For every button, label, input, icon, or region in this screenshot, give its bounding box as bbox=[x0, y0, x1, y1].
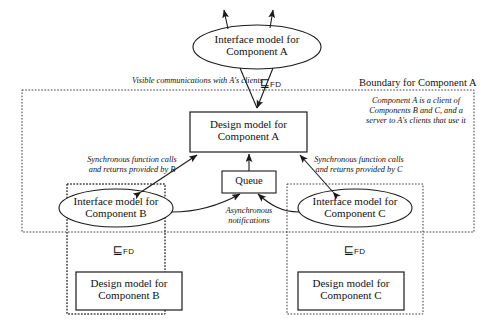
refinement-subscript-c: FD bbox=[354, 247, 365, 256]
sync-calls-b-label: Synchronous function calls and returns p… bbox=[62, 155, 202, 175]
design-model-a-label: Design model for Component A bbox=[190, 118, 307, 143]
arrow-client-1 bbox=[224, 10, 228, 29]
refinement-glyph-b-icon: ⊑ bbox=[113, 243, 123, 257]
refine-line-left bbox=[240, 68, 257, 108]
queue-label: Queue bbox=[222, 175, 276, 187]
interface-model-a-line1: Interface model for bbox=[193, 33, 321, 45]
component-a-note-line2: Components B and C, and a bbox=[357, 106, 475, 116]
refinement-symbol-b: ⊑FD bbox=[113, 243, 134, 257]
visible-communications-label: Visible communications with A's clients bbox=[83, 76, 263, 86]
sync-calls-c-label: Synchronous function calls and returns p… bbox=[288, 155, 430, 175]
async-notifications-label: Asynchronous notifications bbox=[205, 206, 293, 226]
design-model-b-line2: Component B bbox=[76, 289, 182, 301]
refinement-subscript-a: FD bbox=[270, 80, 281, 89]
sync-calls-c-line2: and returns provided by C bbox=[288, 165, 430, 175]
component-a-note-line3: server to A's clients that use it bbox=[357, 116, 475, 126]
interface-model-c-line1: Interface model for bbox=[291, 195, 419, 207]
sync-calls-b-line1: Synchronous function calls bbox=[62, 155, 202, 165]
sync-calls-c-line1: Synchronous function calls bbox=[288, 155, 430, 165]
refinement-subscript-b: FD bbox=[123, 247, 134, 256]
async-notifications-line1: Asynchronous bbox=[205, 206, 293, 216]
refinement-symbol-a: ⊑FD bbox=[260, 76, 281, 90]
interface-model-b-label: Interface model for Component B bbox=[52, 195, 180, 220]
diagram-canvas: Interface model for Component A ⊑FD Visi… bbox=[0, 0, 496, 323]
interface-model-a-label: Interface model for Component A bbox=[193, 33, 321, 58]
design-model-a-line1: Design model for bbox=[190, 118, 307, 130]
interface-model-c-line2: Component C bbox=[291, 207, 419, 219]
sync-calls-b-line2: and returns provided by B bbox=[62, 165, 202, 175]
design-model-c-label: Design model for Component C bbox=[298, 277, 404, 302]
design-model-c-line1: Design model for bbox=[298, 277, 404, 289]
design-model-a-line2: Component A bbox=[190, 130, 307, 142]
boundary-a-label: Boundary for Component A bbox=[359, 77, 489, 89]
design-model-b-label: Design model for Component B bbox=[76, 277, 182, 302]
refinement-glyph-c-icon: ⊑ bbox=[344, 243, 354, 257]
async-notifications-line2: notifications bbox=[205, 216, 293, 226]
interface-model-a-line2: Component A bbox=[193, 45, 321, 57]
design-model-b-line1: Design model for bbox=[76, 277, 182, 289]
interface-model-b-line2: Component B bbox=[52, 207, 180, 219]
interface-model-c-label: Interface model for Component C bbox=[291, 195, 419, 220]
component-a-note-line1: Component A is a client of bbox=[357, 96, 475, 106]
interface-model-b-line1: Interface model for bbox=[52, 195, 180, 207]
component-a-note: Component A is a client of Components B … bbox=[357, 96, 475, 126]
refinement-symbol-c: ⊑FD bbox=[344, 243, 365, 257]
design-model-c-line2: Component C bbox=[298, 289, 404, 301]
